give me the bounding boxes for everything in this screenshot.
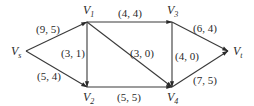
edge-label-v1-v3: (4, 4)	[118, 7, 142, 20]
edge-label-vs-v2: (5, 4)	[37, 70, 61, 83]
diagram-svg: (9, 5)(5, 4)(4, 4)(3, 1)(3, 0)(5, 5)(4, …	[0, 0, 254, 106]
node-label-v3: V3	[167, 3, 178, 19]
edge-label-v3-vt: (6, 4)	[193, 22, 217, 35]
node-label-vs: Vs	[11, 44, 21, 60]
node-label-vt: Vt	[233, 44, 243, 60]
edge-label-v3-v4: (4, 0)	[175, 50, 199, 63]
edge-label-v2-v4: (5, 5)	[117, 91, 141, 104]
edge-label-v1-v4: (3, 0)	[130, 47, 154, 60]
node-label-v4: V4	[167, 90, 178, 106]
node-label-v1: V1	[83, 3, 94, 19]
edge-label-vs-v1: (9, 5)	[36, 23, 60, 36]
edge-label-v4-vt: (7, 5)	[193, 74, 217, 87]
flow-network-diagram: (9, 5)(5, 4)(4, 4)(3, 1)(3, 0)(5, 5)(4, …	[0, 0, 254, 106]
edge-label-v1-v2: (3, 1)	[61, 47, 85, 60]
node-label-v2: V2	[83, 90, 94, 106]
